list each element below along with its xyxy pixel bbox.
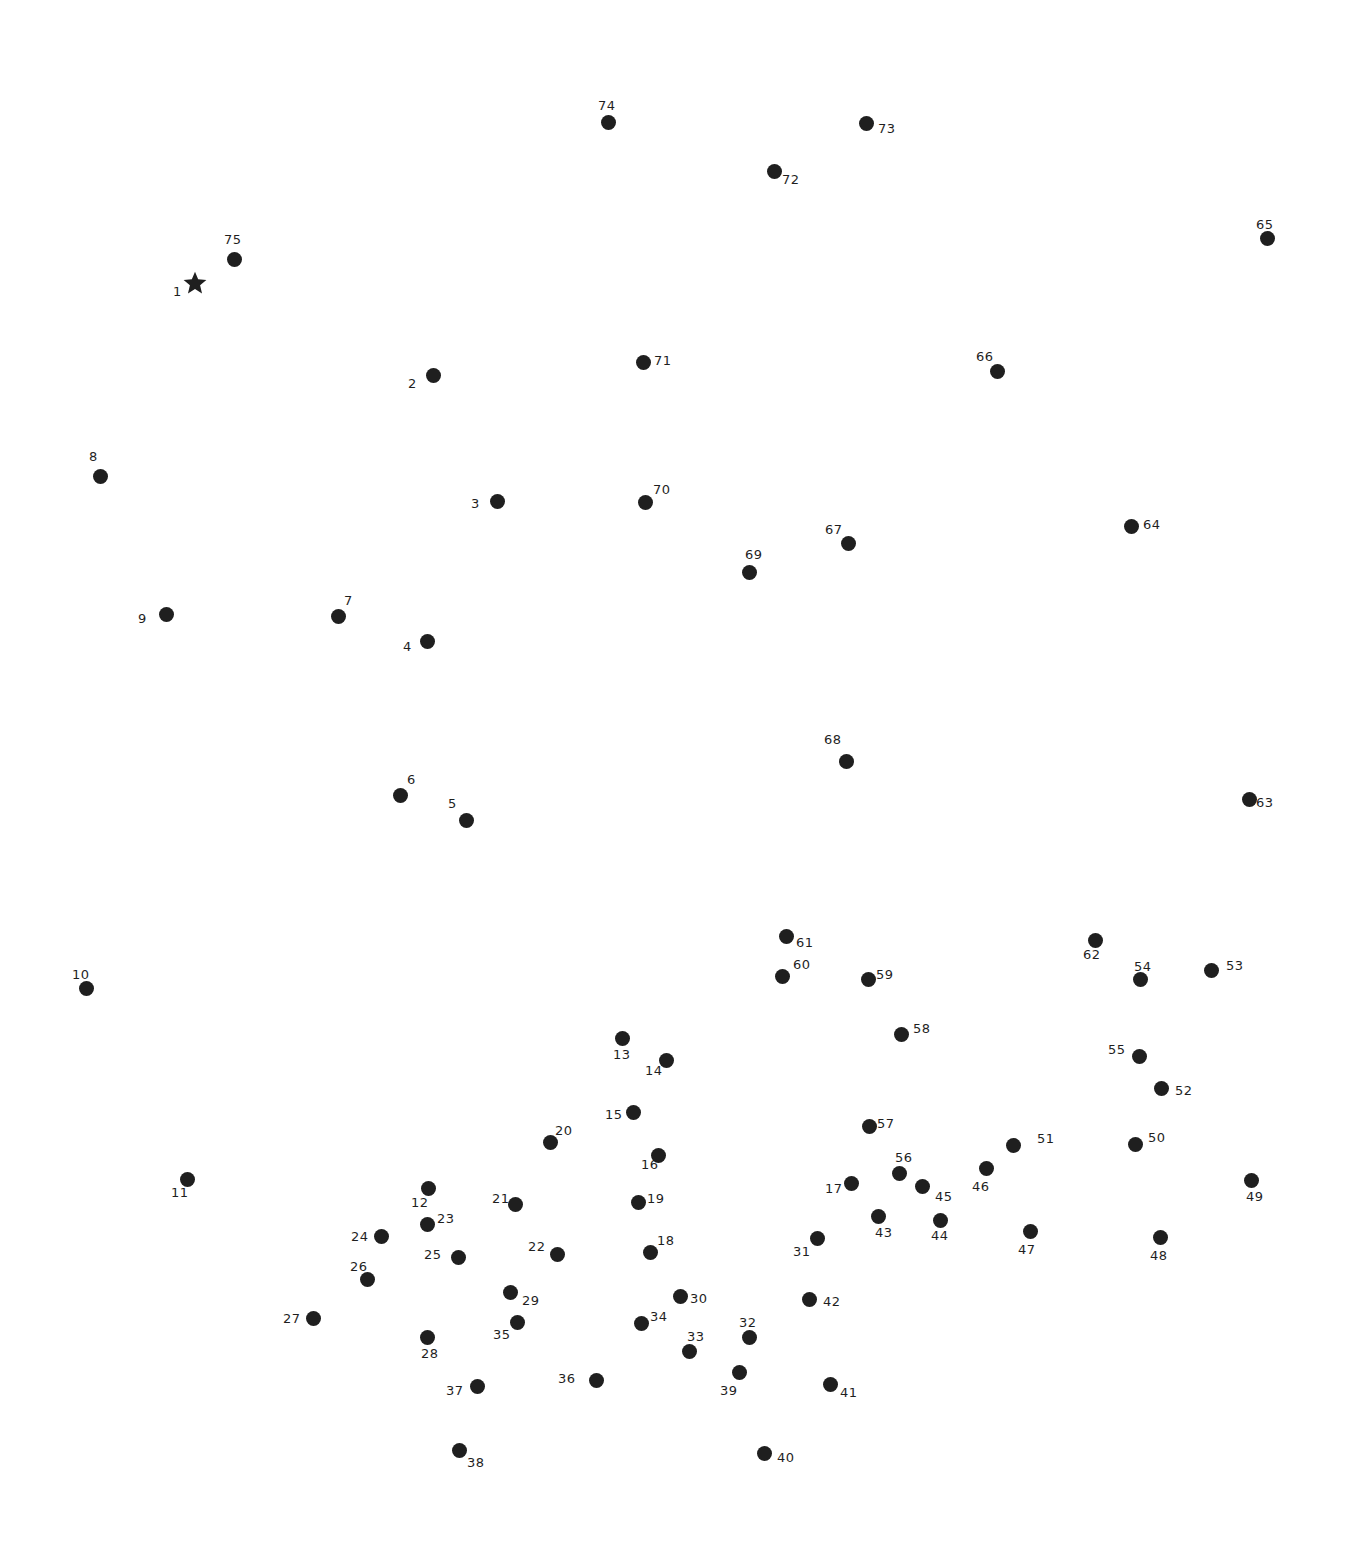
dot-label: 7 <box>344 594 353 607</box>
dot-label: 64 <box>1143 518 1161 531</box>
dot-label: 38 <box>467 1456 485 1469</box>
dot-label: 52 <box>1175 1084 1193 1097</box>
dot-34 <box>634 1316 649 1331</box>
dot-66 <box>990 364 1005 379</box>
dot-label: 39 <box>720 1384 738 1397</box>
dot-18 <box>643 1245 658 1260</box>
dot-label: 45 <box>935 1190 953 1203</box>
dot-15 <box>626 1105 641 1120</box>
dot-label: 20 <box>555 1124 573 1137</box>
dot-29 <box>503 1285 518 1300</box>
dot-label: 49 <box>1246 1190 1264 1203</box>
dot-label: 37 <box>446 1384 464 1397</box>
dot-37 <box>470 1379 485 1394</box>
dot-19 <box>631 1195 646 1210</box>
dot-label: 9 <box>138 612 147 625</box>
dot-label: 43 <box>875 1226 893 1239</box>
dot-64 <box>1124 519 1139 534</box>
dot-13 <box>615 1031 630 1046</box>
dot-40 <box>757 1446 772 1461</box>
dot-label: 5 <box>448 797 457 810</box>
dot-58 <box>894 1027 909 1042</box>
dot-30 <box>673 1289 688 1304</box>
dot-60 <box>775 969 790 984</box>
dot-44 <box>933 1213 948 1228</box>
dot-28 <box>420 1330 435 1345</box>
dot-59 <box>861 972 876 987</box>
dot-5 <box>459 813 474 828</box>
dot-label: 41 <box>840 1386 858 1399</box>
dot-42 <box>802 1292 817 1307</box>
dot-label: 61 <box>796 936 814 949</box>
dot-label: 54 <box>1134 960 1152 973</box>
dot-45 <box>915 1179 930 1194</box>
dot-label: 69 <box>745 548 763 561</box>
dot-label: 59 <box>876 968 894 981</box>
dot-label: 14 <box>645 1064 663 1077</box>
dot-24 <box>374 1229 389 1244</box>
dot-label: 48 <box>1150 1249 1168 1262</box>
dot-label: 62 <box>1083 948 1101 961</box>
dot-label: 2 <box>408 377 417 390</box>
dot-label: 11 <box>171 1186 189 1199</box>
dot-6 <box>393 788 408 803</box>
dot-31 <box>810 1231 825 1246</box>
dot-to-dot-puzzle: 1234567891011121314151617181920212223242… <box>0 0 1352 1547</box>
dot-label: 47 <box>1018 1243 1036 1256</box>
dot-label: 66 <box>976 350 994 363</box>
dot-label: 50 <box>1148 1131 1166 1144</box>
dot-4 <box>420 634 435 649</box>
dot-label: 30 <box>690 1292 708 1305</box>
dot-label: 26 <box>350 1260 368 1273</box>
dot-41 <box>823 1377 838 1392</box>
dot-label: 22 <box>528 1240 546 1253</box>
dot-63 <box>1242 792 1257 807</box>
dot-label: 15 <box>605 1108 623 1121</box>
star-icon <box>182 270 208 296</box>
dot-label: 25 <box>424 1248 442 1261</box>
dot-label: 3 <box>471 497 480 510</box>
dot-label: 60 <box>793 958 811 971</box>
dot-8 <box>93 469 108 484</box>
dot-10 <box>79 981 94 996</box>
dot-label: 8 <box>89 450 98 463</box>
dot-51 <box>1006 1138 1021 1153</box>
dot-43 <box>871 1209 886 1224</box>
dot-label: 71 <box>654 354 672 367</box>
dot-label: 12 <box>411 1196 429 1209</box>
dot-label: 42 <box>823 1295 841 1308</box>
dot-9 <box>159 607 174 622</box>
dot-39 <box>732 1365 747 1380</box>
dot-7 <box>331 609 346 624</box>
dot-label: 28 <box>421 1347 439 1360</box>
dot-57 <box>862 1119 877 1134</box>
dot-72 <box>767 164 782 179</box>
dot-38 <box>452 1443 467 1458</box>
dot-label: 33 <box>687 1330 705 1343</box>
dot-label: 58 <box>913 1022 931 1035</box>
dot-label: 74 <box>598 99 616 112</box>
dot-label: 34 <box>650 1310 668 1323</box>
dot-32 <box>742 1330 757 1345</box>
dot-label: 21 <box>492 1192 510 1205</box>
dot-label: 10 <box>72 968 90 981</box>
dot-label: 72 <box>782 173 800 186</box>
dot-label: 4 <box>403 640 412 653</box>
dot-53 <box>1204 963 1219 978</box>
dot-label: 70 <box>653 483 671 496</box>
dot-25 <box>451 1250 466 1265</box>
dot-70 <box>638 495 653 510</box>
dot-label: 31 <box>793 1245 811 1258</box>
dot-label: 23 <box>437 1212 455 1225</box>
dot-36 <box>589 1373 604 1388</box>
dot-17 <box>844 1176 859 1191</box>
dot-61 <box>779 929 794 944</box>
dot-56 <box>892 1166 907 1181</box>
dot-label: 36 <box>558 1372 576 1385</box>
dot-label: 17 <box>825 1182 843 1195</box>
dot-label: 65 <box>1256 218 1274 231</box>
dot-label: 40 <box>777 1451 795 1464</box>
dot-62 <box>1088 933 1103 948</box>
dot-3 <box>490 494 505 509</box>
dot-23 <box>420 1217 435 1232</box>
